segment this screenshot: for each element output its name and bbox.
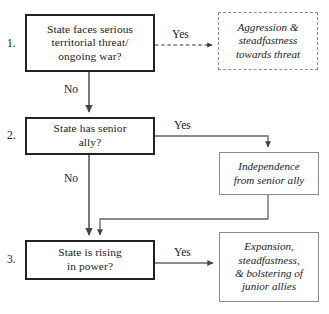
decision-node-2-line-2: ally? (53, 136, 126, 150)
decision-node-1-line-1: State faces serious (47, 23, 133, 37)
decision-node-territorial-threat[interactable]: State faces serious territorial threat/ … (25, 14, 155, 72)
outcome-node-1-line-2: steadfastness (236, 34, 300, 47)
decision-node-1-line-3: ongoing war? (47, 50, 133, 64)
outcome-node-2-text: Independence from senior ally (230, 160, 308, 187)
outcome-node-aggression-steadfastness[interactable]: Aggression & steadfastness towards threa… (218, 12, 318, 70)
decision-node-rising-power[interactable]: State is rising in power? (25, 240, 155, 280)
outcome-node-1-line-3: towards threat (236, 48, 300, 61)
decision-node-3-line-2: in power? (58, 260, 122, 274)
outcome-node-1-text: Aggression & steadfastness towards threa… (232, 21, 304, 61)
step-number-3: 3. (7, 253, 16, 266)
outcome-node-1-line-1: Aggression & (236, 21, 300, 34)
edge-label-no-1: No (64, 83, 78, 96)
outcome-node-3-line-3: & bolstering of (235, 267, 303, 280)
outcome-node-2-line-2: from senior ally (234, 174, 304, 187)
decision-node-1-text: State faces serious territorial threat/ … (43, 23, 137, 64)
decision-node-3-line-1: State is rising (58, 246, 122, 260)
outcome-node-3-text: Expansion, steadfastness, & bolstering o… (231, 240, 307, 294)
edge-label-no-2: No (64, 172, 78, 185)
outcome-node-3-line-2: steadfastness, (235, 254, 303, 267)
step-number-1: 1. (7, 37, 16, 50)
outcome-node-2-line-1: Independence (234, 160, 304, 173)
edge-independence-to-step3 (100, 195, 268, 235)
outcome-node-expansion[interactable]: Expansion, steadfastness, & bolstering o… (219, 232, 319, 302)
decision-node-2-text: State has senior ally? (49, 122, 130, 149)
decision-node-3-text: State is rising in power? (54, 246, 126, 273)
decision-node-senior-ally[interactable]: State has senior ally? (25, 117, 155, 155)
edge-label-yes-1: Yes (172, 28, 189, 41)
outcome-node-3-line-1: Expansion, (235, 240, 303, 253)
decision-node-2-line-1: State has senior (53, 122, 126, 136)
decision-node-1-line-2: territorial threat/ (47, 36, 133, 50)
flowchart-diagram: 1. 2. 3. State faces serious territorial… (0, 0, 329, 314)
edge-step2-yes (155, 136, 268, 147)
edge-label-yes-3: Yes (174, 246, 191, 259)
outcome-node-3-line-4: junior allies (235, 280, 303, 293)
outcome-node-independence[interactable]: Independence from senior ally (219, 152, 319, 195)
step-number-2: 2. (7, 129, 16, 142)
edge-label-yes-2: Yes (174, 119, 191, 132)
